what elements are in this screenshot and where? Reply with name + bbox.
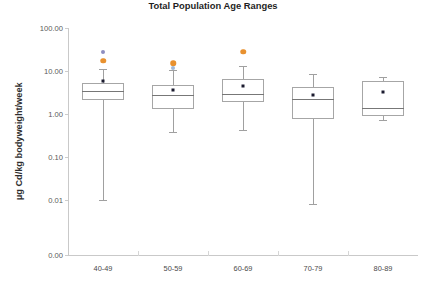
whisker-upper xyxy=(173,70,174,85)
whisker-cap-upper xyxy=(239,66,247,67)
box-iqr xyxy=(292,87,334,119)
y-axis-line xyxy=(68,28,69,255)
whisker-upper xyxy=(313,74,314,87)
x-axis-tick-label: 70-79 xyxy=(304,264,323,273)
x-axis-tick-label: 40-49 xyxy=(94,264,113,273)
x-axis-tick-mark xyxy=(138,251,139,256)
outlier-point xyxy=(240,49,246,55)
x-axis-title: Total Population Age Ranges xyxy=(0,0,426,11)
outlier-point xyxy=(100,58,106,64)
mean-marker xyxy=(102,79,105,82)
whisker-cap-upper xyxy=(379,77,387,78)
y-axis-tick-label: 0.01 xyxy=(48,196,63,205)
whisker-cap-lower xyxy=(169,132,177,133)
whisker-upper xyxy=(243,66,244,79)
y-axis-title: µg Cd/kg bodyweight/week xyxy=(14,82,24,200)
outlier-point xyxy=(101,50,105,54)
box-plot-figure: µg Cd/kg bodyweight/week Total Populatio… xyxy=(0,0,426,303)
median-line xyxy=(222,94,264,95)
whisker-cap-lower xyxy=(239,130,247,131)
whisker-lower xyxy=(173,109,174,132)
x-axis-tick-label: 60-69 xyxy=(234,264,253,273)
y-axis-tick-label: 100.00 xyxy=(40,24,63,33)
whisker-lower xyxy=(103,100,104,200)
y-axis-tick-label: 10.00 xyxy=(44,67,63,76)
x-axis-tick-label: 50-59 xyxy=(164,264,183,273)
median-line xyxy=(292,99,334,100)
whisker-lower xyxy=(243,102,244,130)
box-iqr xyxy=(362,81,404,115)
mean-marker xyxy=(312,93,315,96)
whisker-cap-lower xyxy=(99,200,107,201)
median-line xyxy=(82,91,124,92)
mean-marker xyxy=(382,90,385,93)
whisker-lower xyxy=(313,119,314,204)
median-line xyxy=(362,108,404,109)
x-axis-tick-mark xyxy=(208,251,209,256)
mean-marker xyxy=(242,84,245,87)
y-axis-tick-label: 0.00 xyxy=(48,251,63,260)
whisker-cap-upper xyxy=(309,74,317,75)
x-axis-tick-mark xyxy=(348,251,349,256)
whisker-cap-lower xyxy=(309,204,317,205)
box-iqr xyxy=(222,79,264,102)
outlier-point xyxy=(170,61,176,67)
outlier-point xyxy=(171,66,175,70)
median-line xyxy=(152,95,194,96)
x-axis-tick-label: 80-89 xyxy=(374,264,393,273)
y-axis-tick-label: 1.00 xyxy=(48,110,63,119)
whisker-cap-lower xyxy=(379,120,387,121)
x-axis-tick-mark xyxy=(278,251,279,256)
whisker-cap-upper xyxy=(99,69,107,70)
box-iqr xyxy=(82,83,124,100)
mean-marker xyxy=(172,88,175,91)
x-axis-line xyxy=(68,255,418,256)
y-axis-tick-label: 0.10 xyxy=(48,153,63,162)
